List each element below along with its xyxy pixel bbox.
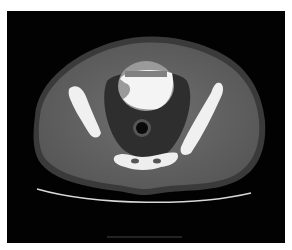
ct-image-frame (7, 11, 285, 243)
ct-scan-svg (7, 11, 285, 243)
